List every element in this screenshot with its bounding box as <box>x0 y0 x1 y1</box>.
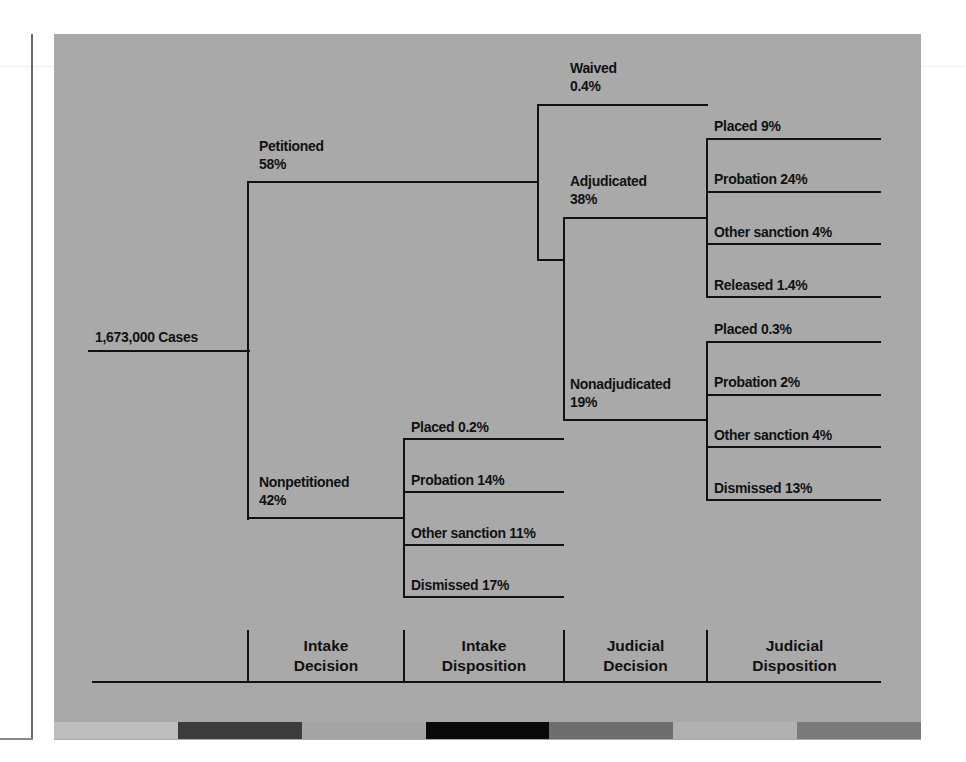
petitioned-pct: 58% <box>259 155 324 173</box>
nonadjudicated-disposition-line <box>706 499 881 501</box>
adjudication-stub <box>537 259 565 261</box>
stage-line1: Judicial <box>565 636 706 656</box>
adjudicated-disposition-line <box>706 296 881 298</box>
nonadjudicated-disposition-line <box>706 341 881 343</box>
adjudicated-disposition-line <box>706 243 881 245</box>
petitioned-name: Petitioned <box>259 137 324 155</box>
intake-disposition-line <box>403 438 564 440</box>
waived-pct: 0.4% <box>570 77 617 95</box>
color-swatch <box>426 722 550 739</box>
petitioned-label: Petitioned 58% <box>259 137 324 173</box>
adjudicated-pct: 38% <box>570 190 647 208</box>
adjudicated-disposition-label: Released 1.4% <box>714 276 807 294</box>
nonpetitioned-line <box>247 517 405 519</box>
stage-line1: Intake <box>249 636 403 656</box>
adjudicated-disposition-label: Probation 24% <box>714 170 807 188</box>
intake-disposition-line <box>403 544 564 546</box>
intake-disposition-line <box>403 491 564 493</box>
color-swatch <box>549 722 673 739</box>
petitioned-line <box>247 181 539 183</box>
frame-left-border <box>31 34 33 740</box>
stage-line1: Judicial <box>708 636 881 656</box>
stage-intake-disposition: Intake Disposition <box>405 636 563 676</box>
root-line <box>88 350 250 352</box>
judicial-decision-connector <box>537 104 539 261</box>
adjudicated-disposition-line <box>706 138 881 140</box>
waived-name: Waived <box>570 59 617 77</box>
frame-bottom-stub <box>0 738 33 740</box>
nonpetitioned-label: Nonpetitioned 42% <box>259 473 349 509</box>
stage-intake-decision: Intake Decision <box>249 636 403 676</box>
intake-disposition-label: Probation 14% <box>411 471 504 489</box>
intake-disposition-label: Placed 0.2% <box>411 418 489 436</box>
intake-disposition-line <box>403 596 564 598</box>
color-swatch <box>797 722 921 739</box>
nonadjudicated-disposition-line <box>706 394 881 396</box>
intake-decision-connector <box>247 181 249 520</box>
nonadjudicated-disposition-label: Placed 0.3% <box>714 320 792 338</box>
intake-disposition-label: Other sanction 11% <box>411 524 536 542</box>
nonadjudicated-disposition-label: Probation 2% <box>714 373 800 391</box>
stage-line2: Disposition <box>405 656 563 676</box>
nonadjudicated-disposition-label: Dismissed 13% <box>714 479 812 497</box>
nonadjudicated-line <box>563 419 708 421</box>
stage-line2: Disposition <box>708 656 881 676</box>
adjudicated-disposition-label: Placed 9% <box>714 117 781 135</box>
color-swatch <box>54 722 178 739</box>
adjudicated-disposition-label: Other sanction 4% <box>714 223 832 241</box>
color-swatch <box>673 722 797 739</box>
nonpetitioned-pct: 42% <box>259 491 349 509</box>
stage-line2: Decision <box>249 656 403 676</box>
stage-line1: Intake <box>405 636 563 656</box>
intake-disposition-label: Dismissed 17% <box>411 576 509 594</box>
color-swatch <box>302 722 426 739</box>
color-swatch <box>178 722 302 739</box>
stage-judicial-decision: Judicial Decision <box>565 636 706 676</box>
nonadjudicated-label: Nonadjudicated 19% <box>570 375 671 411</box>
nonadjudicated-disposition-line <box>706 446 881 448</box>
stage-judicial-disposition: Judicial Disposition <box>708 636 881 676</box>
adjudicated-disposition-line <box>706 191 881 193</box>
adjudicated-name: Adjudicated <box>570 172 647 190</box>
adjudication-connector <box>563 217 565 421</box>
stage-baseline <box>92 681 881 683</box>
nonadjudicated-name: Nonadjudicated <box>570 375 671 393</box>
color-bar <box>54 722 921 739</box>
adjudicated-label: Adjudicated 38% <box>570 172 647 208</box>
stage-line2: Decision <box>565 656 706 676</box>
root-label: 1,673,000 Cases <box>95 328 198 346</box>
adjudicated-line <box>563 217 708 219</box>
intake-disposition-connector <box>403 438 405 598</box>
adjudicated-disposition-connector <box>706 138 708 298</box>
nonadjudicated-disposition-label: Other sanction 4% <box>714 426 832 444</box>
waived-line <box>537 104 708 106</box>
nonadjudicated-disposition-connector <box>706 341 708 501</box>
waived-label: Waived 0.4% <box>570 59 617 95</box>
nonadjudicated-pct: 19% <box>570 393 671 411</box>
nonpetitioned-name: Nonpetitioned <box>259 473 349 491</box>
